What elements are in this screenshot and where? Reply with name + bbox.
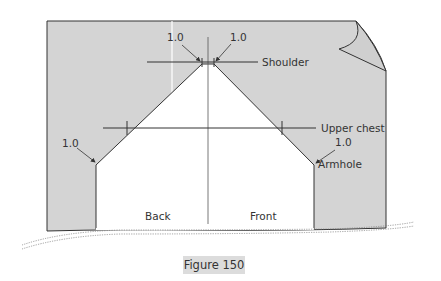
label-front: Front [250,210,277,222]
label-shoulder: Shoulder [262,56,309,68]
label-back: Back [145,210,171,222]
measure-armhole-right: 1.0 [335,136,352,148]
measure-shoulder-left: 1.0 [167,31,184,43]
measure-shoulder-right: 1.0 [230,31,247,43]
label-armhole: Armhole [318,158,362,170]
figure-caption: Figure 150 [183,256,245,274]
measure-armhole-left: 1.0 [62,137,79,149]
pattern-diagram: 1.0 1.0 Shoulder Upper chest 1.0 1.0 Arm… [0,0,441,281]
label-upper-chest: Upper chest [321,122,385,134]
